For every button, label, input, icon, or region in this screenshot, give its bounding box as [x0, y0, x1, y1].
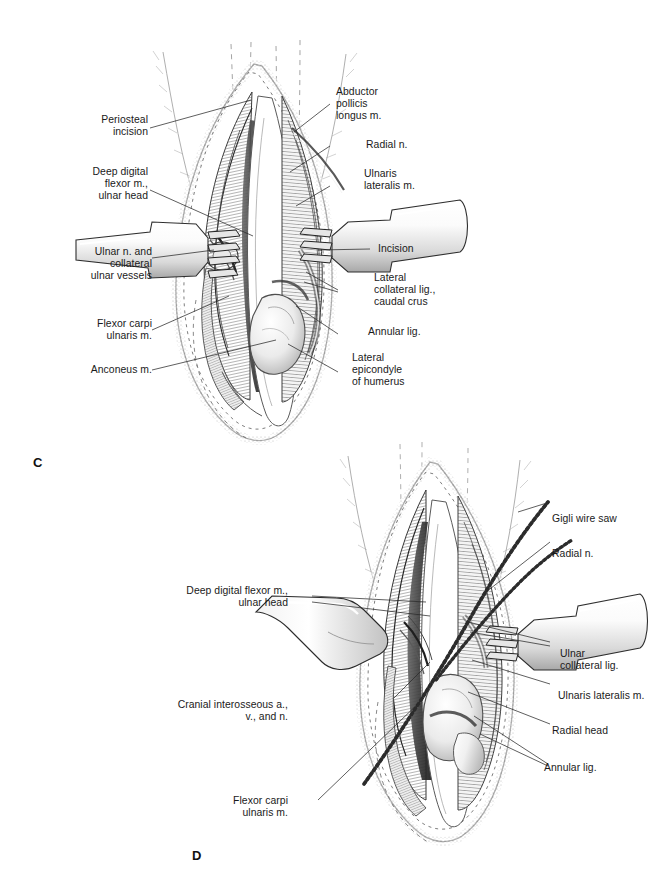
label-radial-nerve-d: Radial n.	[552, 548, 593, 560]
label-ulnar-nerve-vessels-c: Ulnar n. and collateral ulnar vessels	[91, 246, 152, 283]
figure-c-artwork	[76, 40, 468, 441]
label-abductor-pollicis-longus-c: Abductor pollicis longus m.	[336, 86, 382, 123]
label-incision-c: Incision	[378, 243, 414, 255]
figure-d-artwork	[256, 442, 648, 842]
label-deep-digital-flexor-c: Deep digital flexor m., ulnar head	[93, 166, 148, 203]
label-annular-lig-c: Annular lig.	[368, 326, 421, 338]
label-annular-lig-d: Annular lig.	[544, 762, 597, 774]
panel-letter-c: C	[33, 455, 43, 470]
label-flexor-carpi-ulnaris-d: Flexor carpi ulnaris m.	[233, 795, 288, 819]
illustration-plate: Periosteal incision Deep digital flexor …	[0, 0, 670, 894]
label-gigli-wire-saw-d: Gigli wire saw	[552, 513, 617, 525]
label-deep-digital-flexor-d: Deep digital flexor m., ulnar head	[186, 585, 288, 609]
label-ulnaris-lateralis-c: Ulnaris lateralis m.	[364, 168, 415, 192]
label-lateral-epicondyle-c: Lateral epicondyle of humerus	[352, 352, 404, 389]
label-ulnar-collateral-lig-d: Ulnar collateral lig.	[560, 648, 619, 672]
gigli-wire-saw-art	[364, 502, 572, 784]
leader-lines-d	[312, 502, 550, 800]
label-anconeus-c: Anconeus m.	[91, 364, 152, 376]
label-ulnaris-lateralis-d: Ulnaris lateralis m.	[558, 690, 644, 702]
label-cranial-interosseous-d: Cranial interosseous a., v., and n.	[178, 699, 288, 723]
label-flexor-carpi-ulnaris-c: Flexor carpi ulnaris m.	[97, 318, 152, 342]
label-radial-nerve-c: Radial n.	[366, 139, 407, 151]
label-lateral-collateral-lig-c: Lateral collateral lig., caudal crus	[374, 272, 435, 309]
panel-letter-d: D	[192, 848, 202, 863]
label-radial-head-d: Radial head	[552, 725, 608, 737]
leader-lines-c	[150, 100, 370, 372]
label-periosteal-incision-c: Periosteal incision	[101, 114, 148, 138]
retractor-right-c	[300, 200, 468, 272]
